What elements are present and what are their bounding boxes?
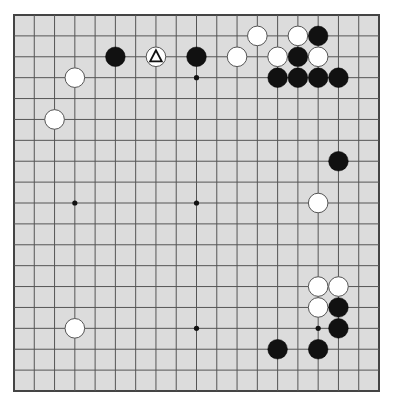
star-point xyxy=(194,75,199,80)
black-stone[interactable] xyxy=(308,68,328,88)
black-stone[interactable] xyxy=(308,26,328,46)
star-point xyxy=(316,326,321,331)
go-board[interactable] xyxy=(0,0,394,409)
white-stone[interactable] xyxy=(65,68,85,88)
white-stone[interactable] xyxy=(288,26,308,46)
white-stone[interactable] xyxy=(308,277,328,297)
white-stone[interactable] xyxy=(227,47,247,67)
white-stone[interactable] xyxy=(65,319,85,339)
star-point xyxy=(194,200,199,205)
white-stone[interactable] xyxy=(308,47,328,67)
white-stone[interactable] xyxy=(308,298,328,318)
white-stone[interactable] xyxy=(329,277,349,297)
black-stone[interactable] xyxy=(329,151,349,171)
star-point xyxy=(72,200,77,205)
white-stone[interactable] xyxy=(45,110,65,130)
black-stone[interactable] xyxy=(106,47,126,67)
black-stone[interactable] xyxy=(187,47,207,67)
star-point xyxy=(194,326,199,331)
white-stone[interactable] xyxy=(268,47,288,67)
black-stone[interactable] xyxy=(288,68,308,88)
white-stone[interactable] xyxy=(308,193,328,213)
white-stone[interactable] xyxy=(146,47,166,67)
black-stone[interactable] xyxy=(288,47,308,67)
black-stone[interactable] xyxy=(329,298,349,318)
black-stone[interactable] xyxy=(308,339,328,359)
black-stone[interactable] xyxy=(268,339,288,359)
black-stone[interactable] xyxy=(329,319,349,339)
black-stone[interactable] xyxy=(329,68,349,88)
black-stone[interactable] xyxy=(268,68,288,88)
white-stone[interactable] xyxy=(248,26,268,46)
